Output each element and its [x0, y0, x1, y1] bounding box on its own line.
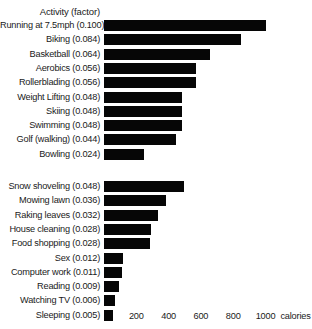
bar-category-label: Sex (0.012)	[0, 253, 100, 264]
bar-category-label: Running at 7.5mph (0.100)	[0, 20, 100, 31]
x-axis: 2004006008001000calories	[0, 310, 312, 324]
chart-bar-row: Bowling (0.024)	[0, 149, 312, 160]
chart-bar-row: Aerobics (0.056)	[0, 63, 312, 74]
x-axis-tick-label: 1000	[256, 310, 276, 322]
bar	[104, 49, 210, 60]
bar	[104, 267, 122, 278]
bar-category-label: Rollerblading (0.056)	[0, 77, 100, 88]
bar	[104, 120, 182, 131]
bar-category-label: Basketball (0.064)	[0, 49, 100, 60]
bar-category-label: Skiing (0.048)	[0, 106, 100, 117]
bar	[104, 181, 184, 192]
bar-category-label: Weight Lifting (0.048)	[0, 92, 100, 103]
chart-bar-row: Mowing lawn (0.036)	[0, 195, 312, 206]
chart-bar-row: Golf (walking) (0.044)	[0, 134, 312, 145]
bar-category-label: Watching TV (0.006)	[0, 295, 100, 306]
bar-category-label: House cleaning (0.028)	[0, 224, 100, 235]
bar-category-label: Golf (walking) (0.044)	[0, 134, 100, 145]
bar-category-label: Aerobics (0.056)	[0, 63, 100, 74]
bar	[104, 92, 182, 103]
bar	[104, 134, 176, 145]
bar	[104, 20, 266, 31]
chart-bar-row: Biking (0.084)	[0, 34, 312, 45]
chart-bar-row: House cleaning (0.028)	[0, 224, 312, 235]
bar	[104, 63, 196, 74]
x-axis-tick-label: 800	[226, 310, 241, 322]
chart-bar-row: Rollerblading (0.056)	[0, 77, 312, 88]
calories-by-activity-bar-chart: Activity (factor)Running at 7.5mph (0.10…	[0, 0, 312, 329]
bar-category-label: Biking (0.084)	[0, 34, 100, 45]
bar	[104, 149, 144, 160]
bar	[104, 195, 166, 206]
chart-bar-row: Skiing (0.048)	[0, 106, 312, 117]
chart-bar-row: Sex (0.012)	[0, 253, 312, 264]
chart-bar-row: Raking leaves (0.032)	[0, 210, 312, 221]
x-axis-tick-label: 600	[194, 310, 209, 322]
chart-bar-row: Reading (0.009)	[0, 281, 312, 292]
bar-category-label: Bowling (0.024)	[0, 149, 100, 160]
chart-bar-row: Food shopping (0.028)	[0, 238, 312, 249]
chart-bar-row: Computer work (0.011)	[0, 267, 312, 278]
bar	[104, 295, 115, 306]
bar-category-label: Swimming (0.048)	[0, 120, 100, 131]
x-axis-tick-label: 400	[161, 310, 176, 322]
chart-bar-row: Weight Lifting (0.048)	[0, 92, 312, 103]
bar-category-label: Reading (0.009)	[0, 281, 100, 292]
bar-category-label: Food shopping (0.028)	[0, 238, 100, 249]
x-axis-tick-label: 200	[129, 310, 144, 322]
x-axis-unit-label: calories	[280, 310, 310, 322]
bar	[104, 77, 196, 88]
bar-category-label: Raking leaves (0.032)	[0, 210, 100, 221]
chart-bar-row: Running at 7.5mph (0.100)	[0, 20, 312, 31]
bar	[104, 253, 123, 264]
chart-axis-title: Activity (factor)	[0, 6, 100, 17]
bar	[104, 224, 151, 235]
bar	[104, 238, 150, 249]
bar	[104, 281, 119, 292]
bar	[104, 106, 182, 117]
chart-bar-row: Swimming (0.048)	[0, 120, 312, 131]
chart-bar-row: Watching TV (0.006)	[0, 295, 312, 306]
chart-bar-row: Snow shoveling (0.048)	[0, 181, 312, 192]
bar-category-label: Computer work (0.011)	[0, 267, 100, 278]
bar	[104, 34, 241, 45]
bar-category-label: Snow shoveling (0.048)	[0, 181, 100, 192]
bar-category-label: Mowing lawn (0.036)	[0, 195, 100, 206]
chart-bar-row: Basketball (0.064)	[0, 49, 312, 60]
bar	[104, 210, 158, 221]
